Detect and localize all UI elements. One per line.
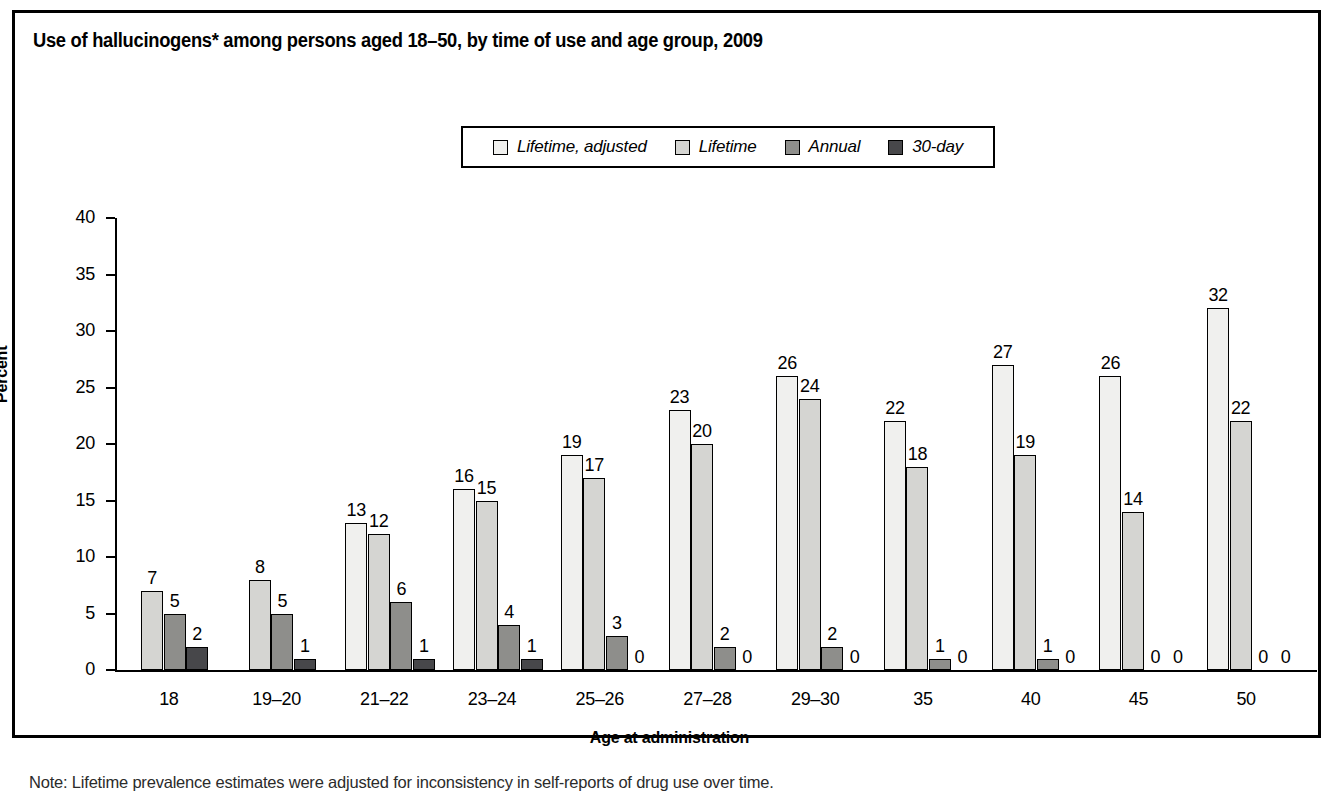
y-tick-mark <box>106 330 115 332</box>
bar[interactable] <box>1207 308 1229 670</box>
legend-swatch-icon <box>785 140 800 155</box>
bar[interactable] <box>1099 376 1121 670</box>
bar-group: 262420 <box>776 218 866 670</box>
bar[interactable] <box>476 501 498 671</box>
y-axis-label: Percent <box>0 346 11 403</box>
x-tick-label: 29–30 <box>755 689 875 710</box>
bar-slot: 26 <box>776 218 798 670</box>
legend-swatch-icon <box>675 140 690 155</box>
y-tick-label: 10 <box>55 546 95 567</box>
legend-entry[interactable]: Annual <box>785 137 861 157</box>
bar[interactable] <box>776 376 798 670</box>
x-tick-label: 45 <box>1078 689 1198 710</box>
y-tick-label: 20 <box>55 433 95 454</box>
bar-slot: 0 <box>1275 218 1297 670</box>
legend-entry[interactable]: 30-day <box>888 137 963 157</box>
bar-value-label: 2 <box>167 625 227 643</box>
x-tick-label: 21–22 <box>324 689 444 710</box>
bar-slot: 17 <box>583 218 605 670</box>
x-tick-label: 27–28 <box>648 689 768 710</box>
bar-slot: 4 <box>498 218 520 670</box>
y-tick-label: 35 <box>55 264 95 285</box>
bar[interactable] <box>992 365 1014 670</box>
bar-slot: 16 <box>453 218 475 670</box>
x-tick-label: 35 <box>863 689 983 710</box>
x-tick-label: 23–24 <box>432 689 552 710</box>
bar-slot: 0 <box>1059 218 1081 670</box>
bar-slot: 1 <box>413 218 435 670</box>
y-tick-mark <box>106 556 115 558</box>
chart-legend: Lifetime, adjustedLifetimeAnnual30-day <box>461 126 995 168</box>
bar-slot: 19 <box>561 218 583 670</box>
bar-slot: 0 <box>844 218 866 670</box>
bar-group: 232020 <box>669 218 759 670</box>
bar-value-label: 1 <box>502 637 562 655</box>
bar-slot: 0 <box>1144 218 1166 670</box>
plot-area: 7528511312611615411917302320202624202218… <box>115 218 1300 670</box>
bar[interactable] <box>294 659 316 670</box>
bar-slot: 0 <box>1167 218 1189 670</box>
bar-slot: 6 <box>390 218 412 670</box>
y-tick-mark <box>106 217 115 219</box>
y-tick-mark <box>106 387 115 389</box>
bar-group: 322200 <box>1207 218 1297 670</box>
bar-slot: 1 <box>1037 218 1059 670</box>
bar-slot: 5 <box>164 218 186 670</box>
bar-group: 191730 <box>561 218 651 670</box>
bar[interactable] <box>413 659 435 670</box>
bar[interactable] <box>453 489 475 670</box>
bar[interactable] <box>669 410 691 670</box>
y-tick-mark <box>106 500 115 502</box>
bar-value-label: 1 <box>394 637 454 655</box>
bar-value-label: 0 <box>1040 648 1100 666</box>
bar-slot: 1 <box>521 218 543 670</box>
chart-note: Note: Lifetime prevalence estimates were… <box>29 773 774 792</box>
chart-figure: Use of hallucinogens* among persons aged… <box>12 10 1321 738</box>
page-title: Use of hallucinogens* among persons aged… <box>33 29 763 52</box>
legend-label: Annual <box>809 137 861 157</box>
bar-group: 271910 <box>992 218 1082 670</box>
bar-slot: 23 <box>669 218 691 670</box>
legend-entry[interactable]: Lifetime, adjusted <box>493 137 647 157</box>
bar-value-label: 0 <box>1148 648 1208 666</box>
bar[interactable] <box>186 647 208 670</box>
bar-group: 261400 <box>1099 218 1189 670</box>
bar-slot: 13 <box>345 218 367 670</box>
bar[interactable] <box>345 523 367 670</box>
bar-slot: 22 <box>1230 218 1252 670</box>
bar[interactable] <box>1122 512 1144 670</box>
bar-group: 221810 <box>884 218 974 670</box>
bar-slot: 5 <box>271 218 293 670</box>
y-tick-label: 40 <box>55 207 95 228</box>
bar-value-label: 0 <box>825 648 885 666</box>
legend-entry[interactable]: Lifetime <box>675 137 757 157</box>
y-tick-label: 15 <box>55 490 95 511</box>
bar[interactable] <box>521 659 543 670</box>
y-tick-mark <box>106 274 115 276</box>
legend-swatch-icon <box>888 140 903 155</box>
y-tick-label: 30 <box>55 320 95 341</box>
bar[interactable] <box>561 455 583 670</box>
bar-slot: 26 <box>1099 218 1121 670</box>
bar-slot: 1 <box>929 218 951 670</box>
bar-slot: 0 <box>951 218 973 670</box>
bar-value-label: 0 <box>1256 648 1316 666</box>
bar-group: 161541 <box>453 218 543 670</box>
bar[interactable] <box>368 534 390 670</box>
x-axis-label: Age at administration <box>15 729 1324 747</box>
x-tick-label: 40 <box>971 689 1091 710</box>
y-tick-label: 0 <box>55 659 95 680</box>
bar-slot: 2 <box>186 218 208 670</box>
bar-slot: 24 <box>799 218 821 670</box>
bar-group: 131261 <box>345 218 435 670</box>
x-tick-label: 25–26 <box>540 689 660 710</box>
y-tick-label: 25 <box>55 377 95 398</box>
bar-slot: 32 <box>1207 218 1229 670</box>
bar-value-label: 0 <box>717 648 777 666</box>
bar-slot: 2 <box>821 218 843 670</box>
bar[interactable] <box>583 478 605 670</box>
bar-slot: 1 <box>294 218 316 670</box>
bar-slot: 14 <box>1122 218 1144 670</box>
y-tick-mark <box>106 613 115 615</box>
bar[interactable] <box>1230 421 1252 670</box>
